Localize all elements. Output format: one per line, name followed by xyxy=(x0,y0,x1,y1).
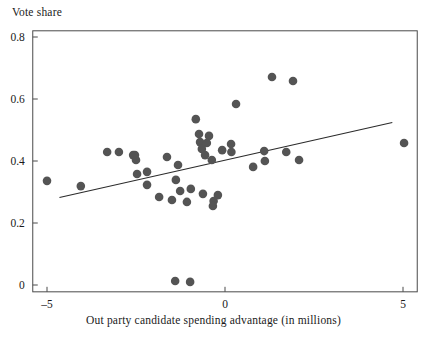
data-point xyxy=(174,161,183,170)
data-point xyxy=(77,182,86,191)
data-point xyxy=(186,278,195,287)
data-point xyxy=(195,130,204,139)
y-tick-label: 0.6 xyxy=(10,93,25,105)
data-point xyxy=(227,148,236,157)
data-point xyxy=(295,156,304,165)
data-point xyxy=(192,115,201,124)
data-point xyxy=(183,198,192,207)
data-point xyxy=(133,170,142,179)
y-tick-label: 0.2 xyxy=(10,217,25,229)
data-point xyxy=(282,148,291,157)
y-tick-label: 0.8 xyxy=(10,31,25,43)
x-axis-label: Out party candidate spending advantage (… xyxy=(0,314,427,326)
data-point xyxy=(115,148,124,157)
fit-line xyxy=(59,123,392,198)
data-point xyxy=(143,181,152,190)
data-point xyxy=(289,77,298,86)
data-point xyxy=(249,163,258,172)
data-point xyxy=(155,193,164,202)
data-point xyxy=(171,277,180,286)
data-point xyxy=(232,100,241,109)
data-point xyxy=(261,157,270,166)
data-point xyxy=(227,140,236,149)
data-point xyxy=(208,156,217,165)
data-point xyxy=(132,156,141,165)
plot-frame xyxy=(33,31,417,292)
data-point xyxy=(163,153,172,162)
data-point xyxy=(209,202,218,211)
x-tick-label: 5 xyxy=(400,298,406,310)
data-point xyxy=(187,185,196,194)
y-tick-label: 0 xyxy=(19,279,25,291)
data-point xyxy=(260,147,269,156)
y-tick-label: 0.4 xyxy=(10,155,25,167)
data-point xyxy=(268,73,277,82)
plot-canvas: 00.20.40.60.8–505 xyxy=(0,0,427,340)
data-point xyxy=(43,177,52,186)
data-point xyxy=(218,146,227,155)
data-point xyxy=(400,139,409,148)
data-point xyxy=(176,187,185,196)
data-point xyxy=(168,196,177,205)
data-point xyxy=(199,190,208,199)
x-tick-label: –5 xyxy=(40,298,53,310)
x-tick-label: 0 xyxy=(222,298,228,310)
scatter-plot-figure: Vote share 00.20.40.60.8–505 Out party c… xyxy=(0,0,427,340)
data-point xyxy=(172,176,181,185)
data-point xyxy=(103,148,112,157)
data-point xyxy=(143,168,152,177)
